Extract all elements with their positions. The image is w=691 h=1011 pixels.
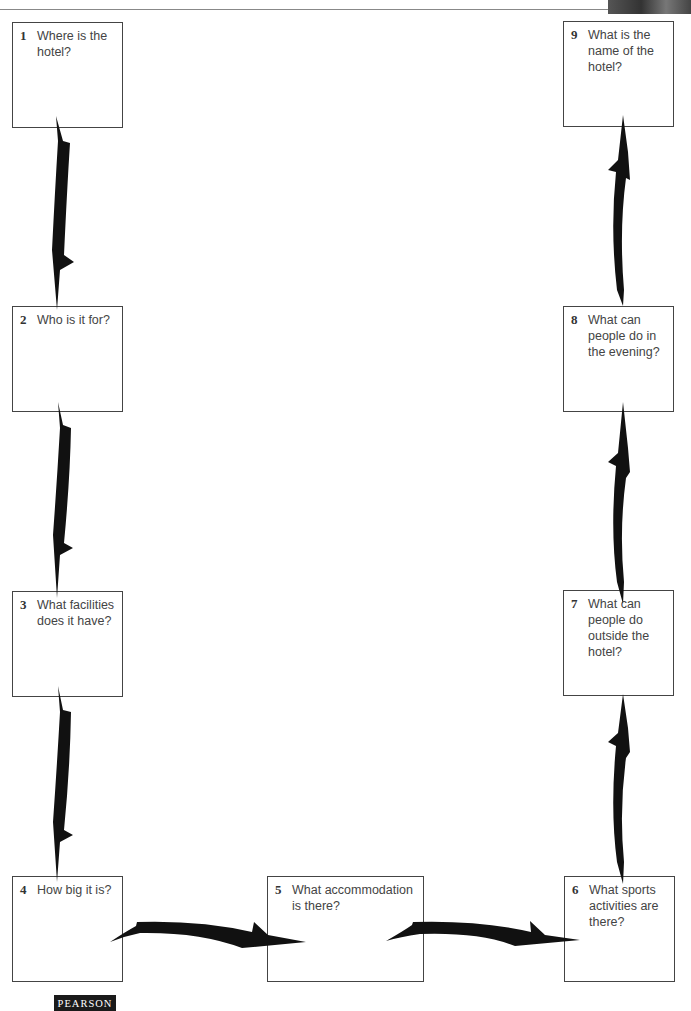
publisher-logo: PEARSON bbox=[54, 995, 116, 1011]
box-number: 3 bbox=[20, 597, 37, 696]
box-number: 7 bbox=[571, 596, 588, 695]
box-question: What accommodation is there? bbox=[292, 882, 417, 981]
box-question: What sports activities are there? bbox=[589, 882, 668, 981]
box-question: Who is it for? bbox=[37, 312, 116, 411]
box-5: 5 What accommodation is there? bbox=[267, 876, 424, 982]
box-9: 9 What is the name of the hotel? bbox=[563, 21, 674, 127]
box-2: 2 Who is it for? bbox=[12, 306, 123, 412]
arrow-up-icon bbox=[608, 402, 630, 604]
box-1: 1 Where is the hotel? bbox=[12, 22, 123, 128]
arrow-up-icon bbox=[608, 115, 630, 306]
arrow-down-icon bbox=[52, 116, 74, 310]
box-4: 4 How big it is? bbox=[12, 876, 123, 982]
box-number: 8 bbox=[571, 312, 588, 411]
box-number: 4 bbox=[20, 882, 37, 981]
box-number: 9 bbox=[571, 27, 588, 126]
box-number: 6 bbox=[572, 882, 589, 981]
corner-decorative-image bbox=[608, 0, 691, 14]
box-question: Where is the hotel? bbox=[37, 28, 116, 127]
arrow-down-icon bbox=[53, 686, 73, 882]
box-7: 7 What can people do outside the hotel? bbox=[563, 590, 674, 696]
box-question: What can people do outside the hotel? bbox=[588, 596, 667, 695]
arrow-down-icon bbox=[53, 402, 73, 598]
flow-arrows bbox=[0, 0, 691, 1011]
box-3: 3 What facilities does it have? bbox=[12, 591, 123, 697]
box-question: What can people do in the evening? bbox=[588, 312, 667, 411]
box-number: 5 bbox=[275, 882, 292, 981]
box-6: 6 What sports activities are there? bbox=[564, 876, 675, 982]
box-question: What is the name of the hotel? bbox=[588, 27, 667, 126]
box-question: What facilities does it have? bbox=[37, 597, 116, 696]
box-8: 8 What can people do in the evening? bbox=[563, 306, 674, 412]
arrow-up-icon bbox=[608, 694, 630, 884]
box-number: 1 bbox=[20, 28, 37, 127]
box-number: 2 bbox=[20, 312, 37, 411]
top-rule bbox=[0, 9, 691, 10]
box-question: How big it is? bbox=[37, 882, 116, 981]
